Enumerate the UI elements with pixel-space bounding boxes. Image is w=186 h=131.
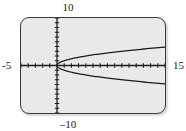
graphing-calculator-figure: 10 -5 15 –10 bbox=[0, 0, 186, 131]
x-max-label: 15 bbox=[173, 60, 184, 71]
y-min-label: –10 bbox=[0, 119, 186, 130]
y-max-label: 10 bbox=[0, 2, 186, 13]
y-max-label-text: 10 bbox=[63, 1, 74, 13]
curve-branch bbox=[57, 47, 165, 65]
calculator-screen-frame bbox=[20, 17, 166, 114]
axes-group bbox=[21, 18, 165, 113]
y-min-label-text: –10 bbox=[60, 118, 77, 130]
plot-area bbox=[21, 18, 165, 113]
x-min-label: -5 bbox=[2, 60, 11, 71]
curve-branch bbox=[57, 66, 165, 84]
